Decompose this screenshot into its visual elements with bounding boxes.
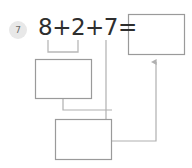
answer-box-total-value[interactable]	[55, 119, 112, 160]
problem-number-badge: 7	[9, 21, 27, 39]
math-worksheet-problem: 7 8+2+7=	[0, 0, 192, 168]
grouping-bracket	[48, 40, 78, 52]
answer-box-first-pair-value[interactable]	[35, 59, 92, 99]
connector-first-pair-to-total	[63, 99, 112, 110]
connector-total-to-sum	[112, 62, 156, 141]
answer-box-sum-value[interactable]	[128, 14, 185, 55]
equation-text: 8+2+7=	[38, 14, 137, 40]
